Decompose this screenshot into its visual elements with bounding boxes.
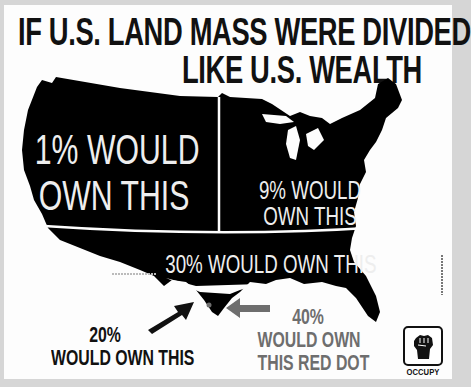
infographic-poster: IF U.S. LAND MASS WERE DIVIDED LIKE U.S.… xyxy=(4,5,452,379)
label-line: WOULD OWN THIS xyxy=(51,346,159,369)
label-line: 20% xyxy=(51,323,159,346)
label-line: 30% WOULD OWN THIS xyxy=(165,251,353,277)
label-line: OWN THIS xyxy=(35,173,193,219)
region-label-1-percent: 1% WOULD OWN THIS xyxy=(35,127,193,219)
region-label-20-percent: 20% WOULD OWN THIS xyxy=(51,323,159,369)
label-line: 40% xyxy=(258,305,359,328)
occupy-label: OCCUPY xyxy=(398,367,447,377)
raised-fist-icon xyxy=(411,332,435,360)
label-line: OWN THIS xyxy=(258,203,363,229)
vertical-credit-text xyxy=(441,255,443,295)
label-line: THIS RED DOT xyxy=(258,351,359,374)
label-line: 1% WOULD xyxy=(35,127,193,173)
region-label-40-percent: 40% WOULD OWN THIS RED DOT xyxy=(258,305,359,374)
label-line: 9% WOULD xyxy=(258,177,363,203)
label-line: WOULD OWN xyxy=(258,328,359,351)
red-dot xyxy=(207,303,212,308)
map-credit-text xyxy=(112,273,156,275)
region-label-9-percent: 9% WOULD OWN THIS xyxy=(258,177,363,229)
region-label-30-percent: 30% WOULD OWN THIS xyxy=(165,251,353,277)
occupy-logo xyxy=(403,326,443,366)
